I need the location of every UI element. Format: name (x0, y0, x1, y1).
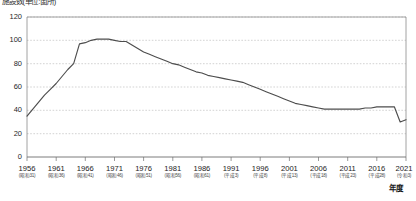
x-tick-year: 1981 (164, 164, 181, 173)
x-tick-era: (平成18) (310, 173, 327, 179)
x-tick-1991: 1991 (平成3) (223, 164, 240, 179)
x-tick-era: (昭和61) (193, 173, 210, 179)
x-tick-era: (令和3) (396, 173, 413, 179)
x-axis-title: 年度 (389, 184, 403, 193)
x-tick-era: (昭和56) (164, 173, 181, 179)
x-tick-era: (平成13) (281, 173, 298, 179)
x-tick-year: 2016 (368, 164, 385, 173)
x-tick-2011: 2011 (平成23) (340, 164, 356, 179)
x-axis: 1956 (昭和31) 1961 (昭和36) 1966 (昭和41) 1971… (0, 0, 416, 201)
x-tick-2006: 2006 (平成18) (310, 164, 327, 179)
x-tick-1996: 1996 (平成8) (252, 164, 269, 179)
x-tick-year: 2021 (396, 164, 413, 173)
x-tick-1956: 1956 (昭和31) (19, 164, 36, 179)
x-tick-year: 1996 (252, 164, 269, 173)
x-tick-era: (昭和41) (77, 173, 94, 179)
x-tick-year: 1971 (106, 164, 123, 173)
x-tick-year: 1976 (135, 164, 152, 173)
x-tick-1961: 1961 (昭和36) (48, 164, 65, 179)
x-tick-1966: 1966 (昭和41) (77, 164, 94, 179)
x-tick-year: 2006 (310, 164, 327, 173)
x-tick-1981: 1981 (昭和56) (164, 164, 181, 179)
x-tick-era: (平成3) (223, 173, 240, 179)
x-tick-era: (平成23) (340, 173, 356, 179)
x-tick-era: (昭和31) (19, 173, 36, 179)
x-tick-year: 2011 (340, 164, 356, 173)
x-tick-era: (平成8) (252, 173, 269, 179)
x-tick-1976: 1976 (昭和51) (135, 164, 152, 179)
x-tick-2021: 2021 (令和3) (396, 164, 413, 179)
x-tick-1971: 1971 (昭和46) (106, 164, 123, 179)
x-tick-year: 1986 (193, 164, 210, 173)
x-tick-1986: 1986 (昭和61) (193, 164, 210, 179)
x-tick-year: 2001 (281, 164, 298, 173)
x-tick-era: (平成28) (368, 173, 385, 179)
x-tick-era: (昭和51) (135, 173, 152, 179)
chart-container: 施設数(単位:箇所) (0, 0, 416, 201)
x-tick-year: 1991 (223, 164, 240, 173)
x-tick-year: 1966 (77, 164, 94, 173)
x-tick-2016: 2016 (平成28) (368, 164, 385, 179)
x-tick-year: 1961 (48, 164, 65, 173)
x-tick-2001: 2001 (平成13) (281, 164, 298, 179)
x-tick-era: (昭和46) (106, 173, 123, 179)
x-tick-year: 1956 (19, 164, 36, 173)
x-tick-era: (昭和36) (48, 173, 65, 179)
